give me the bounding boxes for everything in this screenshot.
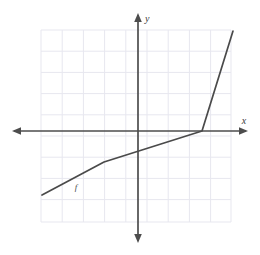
graph-figure: y x f bbox=[0, 0, 260, 255]
grid-vertical-lines bbox=[41, 30, 231, 222]
function-label-f: f bbox=[75, 182, 79, 192]
grid-horizontal-lines bbox=[41, 30, 231, 222]
y-axis-label: y bbox=[144, 13, 150, 24]
grid-lines bbox=[41, 30, 231, 222]
x-axis-right-arrow bbox=[239, 127, 248, 135]
x-axis-left-arrow bbox=[12, 127, 21, 135]
x-axis-label: x bbox=[241, 115, 247, 126]
axes bbox=[12, 13, 248, 243]
coordinate-plane-svg: y x f bbox=[0, 0, 260, 255]
y-axis-down-arrow bbox=[134, 234, 142, 243]
y-axis-up-arrow bbox=[134, 13, 142, 22]
